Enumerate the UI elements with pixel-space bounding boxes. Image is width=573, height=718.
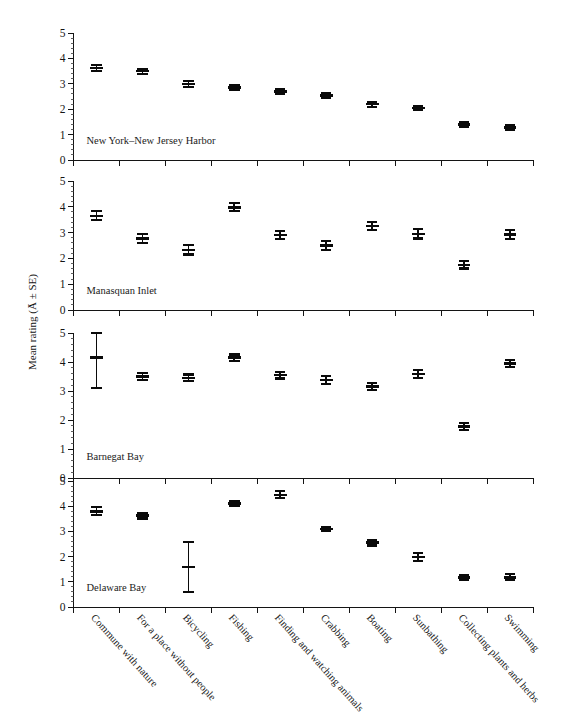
y-tick-label: 2 xyxy=(60,551,66,563)
data-point xyxy=(136,234,149,243)
x-axis-label-7: Sunbathing xyxy=(411,612,452,655)
data-point xyxy=(366,383,379,390)
y-tick-label: 5 xyxy=(60,475,66,487)
data-point xyxy=(182,542,195,592)
data-point xyxy=(136,513,149,519)
data-point xyxy=(274,231,287,239)
panels-group: 012345New York–New Jersey Harbor012345Ma… xyxy=(60,27,533,613)
data-point xyxy=(320,376,333,384)
figure-root: Mean rating (Ā ± SE) 012345New York–New … xyxy=(0,0,573,718)
data-point xyxy=(320,527,333,532)
data-point xyxy=(228,85,241,90)
panel-label-3: Barnegat Bay xyxy=(87,451,145,462)
data-point xyxy=(182,81,195,87)
panel-2: 012345Manasquan Inlet xyxy=(60,175,533,316)
x-axis-label-5: Crabbing xyxy=(319,612,354,649)
panel-label-1: New York–New Jersey Harbor xyxy=(87,135,216,146)
x-axis-label-4: Finding and watching animals xyxy=(273,612,366,714)
data-point xyxy=(182,374,195,381)
panel-label-4: Delaware Bay xyxy=(87,582,148,593)
data-point xyxy=(228,501,241,506)
y-tick-label: 4 xyxy=(60,201,66,213)
data-point xyxy=(274,372,287,379)
panel-label-2: Manasquan Inlet xyxy=(87,285,157,296)
data-point xyxy=(504,230,517,239)
data-point xyxy=(458,575,471,580)
y-tick-label: 3 xyxy=(60,227,66,239)
y-tick-label: 3 xyxy=(60,385,66,397)
y-tick-label: 1 xyxy=(60,129,66,141)
y-tick-label: 4 xyxy=(60,356,66,368)
y-tick-label: 2 xyxy=(60,414,66,426)
data-point xyxy=(458,122,471,126)
data-point xyxy=(228,203,241,211)
data-point xyxy=(228,354,241,360)
data-point xyxy=(458,261,471,268)
y-tick-label: 1 xyxy=(60,576,66,588)
data-point xyxy=(274,491,287,498)
y-tick-label: 1 xyxy=(60,278,66,290)
data-point xyxy=(412,370,425,378)
data-point xyxy=(136,373,149,381)
data-point xyxy=(366,540,379,546)
x-axis-label-3: Fishing xyxy=(227,612,257,643)
data-point xyxy=(412,553,425,561)
y-tick-label: 5 xyxy=(60,327,66,339)
data-point xyxy=(90,65,103,72)
data-point xyxy=(182,245,195,254)
data-point xyxy=(90,211,103,220)
panel-4: 012345Delaware Bay xyxy=(60,475,533,613)
y-tick-label: 5 xyxy=(60,27,66,39)
data-point xyxy=(504,574,517,580)
y-tick-label: 0 xyxy=(60,154,66,166)
x-axis-labels-group: Commune with natureFor a place without p… xyxy=(89,612,542,714)
data-point xyxy=(90,507,103,515)
panel-1: 012345New York–New Jersey Harbor xyxy=(60,27,533,166)
x-axis-label-8: Collecting plants and herbs xyxy=(457,612,542,705)
data-point xyxy=(412,106,425,111)
x-axis-label-6: Boating xyxy=(365,612,396,645)
y-tick-label: 4 xyxy=(60,52,66,64)
y-tick-label: 4 xyxy=(60,500,66,512)
y-axis-title-group: Mean rating (Ā ± SE) xyxy=(26,274,39,370)
y-tick-label: 3 xyxy=(60,78,66,90)
data-point xyxy=(366,102,379,107)
panel-3: 012345Barnegat Bay xyxy=(60,327,533,484)
y-axis-title: Mean rating (Ā ± SE) xyxy=(26,274,39,370)
y-tick-label: 0 xyxy=(60,304,66,316)
x-axis-label-1: For a place without people xyxy=(135,612,218,703)
x-axis-label-2: Bicycling xyxy=(181,612,217,650)
data-point xyxy=(90,333,103,388)
y-tick-label: 3 xyxy=(60,525,66,537)
data-point xyxy=(412,229,425,238)
y-tick-label: 2 xyxy=(60,252,66,264)
data-point xyxy=(458,423,471,429)
multi-panel-error-bar-chart: Mean rating (Ā ± SE) 012345New York–New … xyxy=(0,0,573,718)
data-point xyxy=(504,360,517,368)
y-tick-label: 0 xyxy=(60,601,66,613)
data-point xyxy=(366,222,379,230)
y-tick-label: 1 xyxy=(60,443,66,455)
data-point xyxy=(320,241,333,249)
data-point xyxy=(136,69,149,74)
y-tick-label: 5 xyxy=(60,175,66,187)
x-axis-label-9: Swimming xyxy=(503,612,543,654)
data-point xyxy=(274,89,287,94)
data-point xyxy=(504,125,517,129)
y-tick-label: 2 xyxy=(60,103,66,115)
data-point xyxy=(320,93,333,98)
